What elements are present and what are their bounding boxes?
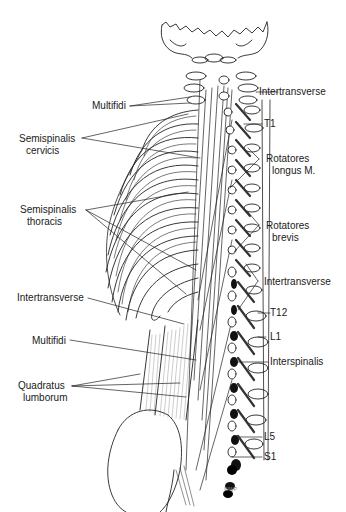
label-t12: T12 [270, 307, 287, 319]
label-text: Semispinalis [19, 133, 75, 145]
spine-illustration: WWP [0, 0, 346, 512]
rotatores-muscles [236, 104, 254, 458]
label-text: Multifidi [92, 100, 126, 111]
label-semispinalis-thoracis: Semispinalis thoracis [20, 204, 76, 228]
label-text: lumborum [18, 392, 67, 404]
label-l5: L5 [264, 431, 275, 443]
label-intertransverse-thoracic: Intertransverse [264, 276, 331, 288]
anatomy-diagram: WWP Multifidi Semispinalis cervicis Semi… [0, 0, 346, 512]
label-text: Intertransverse [17, 292, 84, 303]
spinous-processes [219, 76, 236, 457]
label-multifidi-lumbar: Multifidi [32, 335, 66, 347]
ribs-left [106, 110, 198, 320]
label-intertransverse-left: Intertransverse [17, 292, 84, 304]
label-s1: S1 [264, 451, 276, 463]
label-text: Rotatores [266, 220, 309, 232]
sacral-foramina [223, 465, 237, 498]
label-text: L5 [264, 431, 275, 442]
label-text: Quadratus [18, 380, 67, 392]
pelvis [108, 410, 194, 512]
label-text: L1 [270, 331, 281, 342]
label-l1: L1 [270, 331, 281, 343]
label-text: brevis [266, 232, 309, 244]
label-interspinalis: Interspinalis [270, 356, 323, 368]
label-text: T12 [270, 307, 287, 318]
label-t1: T1 [264, 118, 276, 130]
label-text: thoracis [20, 216, 76, 228]
label-rotatores-longus: Rotatores longus M. [266, 153, 315, 177]
label-text: S1 [264, 451, 276, 462]
label-text: cervicis [19, 145, 75, 157]
label-intertransverse-cervical: Intertransverse [259, 86, 326, 98]
semispinalis-muscle-mass [186, 80, 232, 490]
label-text: Rotatores [266, 153, 315, 165]
label-quadratus-lumborum: Quadratus lumborum [18, 380, 67, 404]
label-text: Intertransverse [259, 86, 326, 97]
label-text: Intertransverse [264, 276, 331, 287]
label-semispinalis-cervicis: Semispinalis cervicis [19, 133, 75, 157]
label-text: Semispinalis [20, 204, 76, 216]
label-text: T1 [264, 118, 276, 129]
label-text: longus M. [266, 165, 315, 177]
label-text: Interspinalis [270, 356, 323, 367]
artist-signature: WWP [224, 486, 237, 492]
label-multifidi-cervical: Multifidi [92, 100, 126, 112]
label-text: Multifidi [32, 335, 66, 346]
skull-base [161, 22, 268, 63]
label-rotatores-brevis: Rotatores brevis [266, 220, 309, 244]
